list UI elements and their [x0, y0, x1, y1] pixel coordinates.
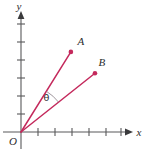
- ray-ob: [21, 73, 95, 132]
- origin-label: O: [9, 135, 17, 147]
- x-axis-label: x: [136, 126, 142, 138]
- y-axis-arrowhead: [18, 11, 25, 19]
- coordinate-plane-figure: y x O A B θ: [0, 0, 145, 149]
- point-a-label: A: [77, 35, 85, 47]
- point-b-marker: [93, 71, 98, 76]
- point-a-marker: [69, 50, 74, 55]
- y-axis-label: y: [16, 0, 22, 12]
- x-axis-arrowhead: [125, 129, 133, 136]
- angle-theta-label: θ: [43, 92, 49, 103]
- point-b-label: B: [99, 56, 106, 68]
- figure-canvas: y x O A B θ: [0, 0, 145, 149]
